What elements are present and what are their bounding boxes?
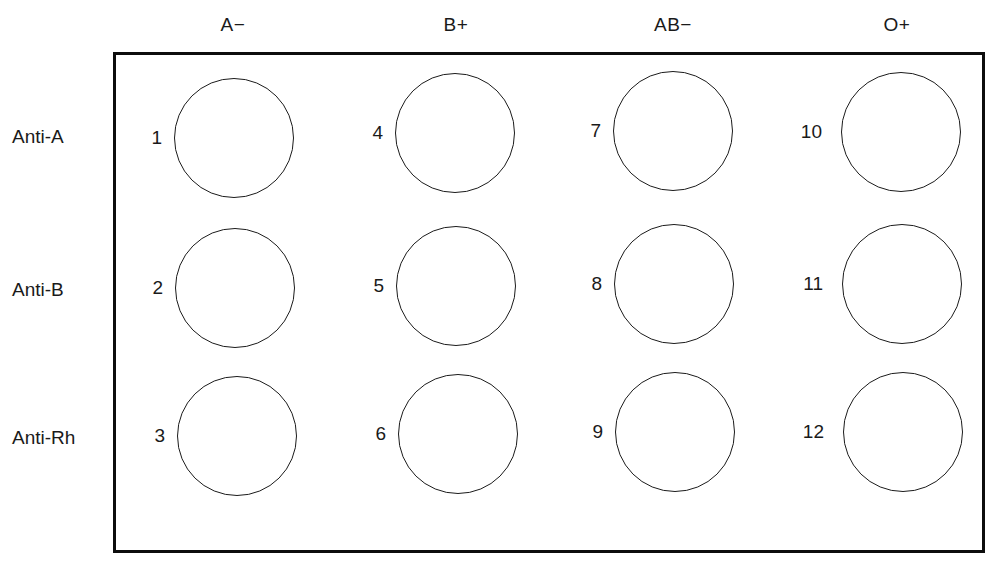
- row-label-1: Anti-A: [12, 124, 64, 150]
- well-11[interactable]: [842, 224, 962, 344]
- well-number-11: 11: [789, 271, 823, 297]
- blood-typing-plate-figure: A−B+AB−O+ Anti-AAnti-BAnti-Rh 1471025811…: [0, 0, 1000, 571]
- well-number-9: 9: [569, 419, 603, 445]
- row-label-3: Anti-Rh: [12, 425, 75, 451]
- well-number-2: 2: [129, 275, 163, 301]
- well-number-12: 12: [790, 419, 824, 445]
- well-10[interactable]: [841, 72, 961, 192]
- well-number-5: 5: [350, 273, 384, 299]
- well-number-7: 7: [567, 118, 601, 144]
- well-4[interactable]: [395, 73, 515, 193]
- well-number-6: 6: [352, 421, 386, 447]
- column-header-1: A−: [221, 11, 246, 39]
- well-number-10: 10: [788, 119, 822, 145]
- column-header-4: O+: [884, 11, 911, 39]
- well-1[interactable]: [174, 78, 294, 198]
- well-number-3: 3: [131, 423, 165, 449]
- well-12[interactable]: [843, 372, 963, 492]
- column-header-3: AB−: [654, 11, 692, 39]
- well-number-8: 8: [568, 271, 602, 297]
- well-7[interactable]: [613, 71, 733, 191]
- well-3[interactable]: [177, 376, 297, 496]
- well-number-1: 1: [128, 125, 162, 151]
- row-label-2: Anti-B: [12, 277, 64, 303]
- well-2[interactable]: [175, 228, 295, 348]
- well-8[interactable]: [614, 224, 734, 344]
- column-header-2: B+: [444, 11, 469, 39]
- well-6[interactable]: [398, 374, 518, 494]
- well-number-4: 4: [349, 120, 383, 146]
- well-9[interactable]: [615, 372, 735, 492]
- well-5[interactable]: [396, 226, 516, 346]
